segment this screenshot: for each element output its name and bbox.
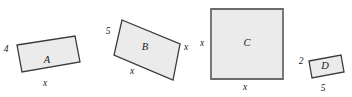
shape-b-label: B [142, 41, 149, 52]
shape-d-label: D [320, 60, 329, 71]
dimension-b-width: x [129, 66, 135, 76]
dimension-b-height: 5 [106, 26, 111, 36]
shape-a-label: A [43, 54, 51, 65]
dimension-d-width: 5 [321, 83, 326, 93]
shape-group-b: B 5 x x [106, 20, 189, 80]
shape-group-c: C x x [199, 9, 283, 92]
dimension-c-width: x [242, 82, 248, 92]
shape-group-a: A 4 x [4, 36, 80, 88]
shape-c-label: C [243, 37, 251, 48]
geometry-figure: A 4 x B 5 x x C x x D 2 5 [0, 0, 352, 97]
dimension-c-height: x [199, 38, 205, 48]
dimension-b-side: x [183, 42, 189, 52]
dimension-a-width: x [42, 78, 48, 88]
dimension-d-height: 2 [299, 56, 304, 66]
dimension-a-height: 4 [4, 44, 9, 54]
shape-group-d: D 2 5 [299, 55, 344, 93]
figure-container: A 4 x B 5 x x C x x D 2 5 [0, 0, 352, 97]
